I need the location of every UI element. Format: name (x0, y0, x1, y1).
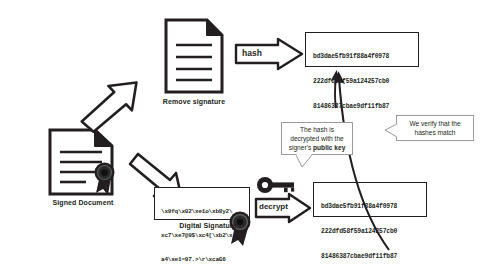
verify-callout-tail (384, 122, 398, 140)
decrypt-callout-line3-prefix: signer's (289, 144, 313, 151)
decrypt-callout-line2: decrypted with the (289, 134, 346, 143)
decrypt-callout-line3: signer's public key (289, 143, 346, 152)
verify-callout-line2: hashes match (409, 128, 460, 137)
verify-callout-line1: We verify that the (409, 119, 460, 128)
compare-arrow-long (339, 78, 389, 250)
decrypt-callout-line1: The hash is (289, 125, 346, 134)
decrypt-callout: The hash is decrypted with the signer's … (281, 122, 353, 155)
compare-arrow-short (335, 76, 336, 108)
decrypt-callout-line3-bold: public key (313, 144, 345, 151)
decrypt-callout-tail (295, 154, 315, 168)
verify-callout: We verify that the hashes match (396, 115, 474, 141)
